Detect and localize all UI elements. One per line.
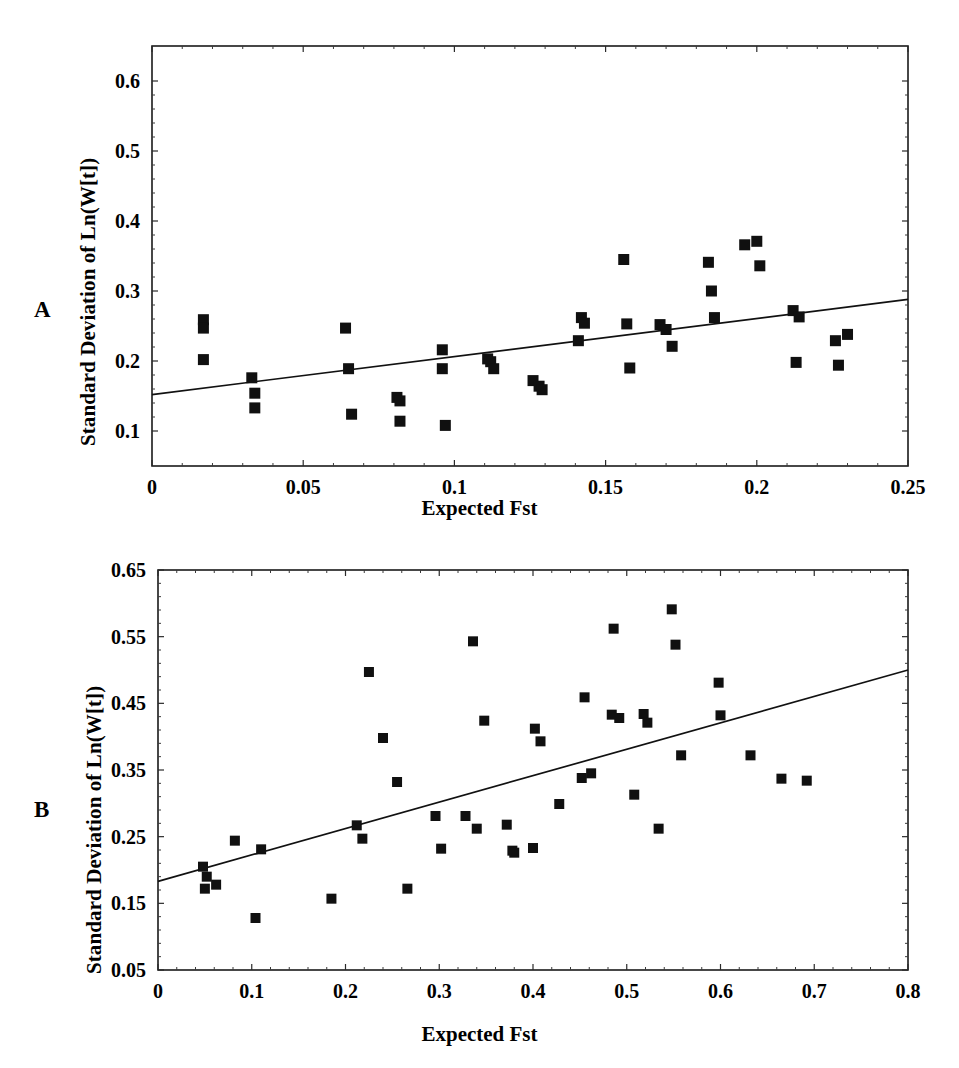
data-point [751, 236, 762, 247]
panel-a: A Standard Deviation of Ln(W[t]) Expecte… [0, 0, 959, 534]
data-point [479, 716, 489, 726]
data-point [357, 834, 367, 844]
y-tick-label: 0.15 [111, 892, 146, 914]
data-point [833, 360, 844, 371]
data-point [431, 811, 441, 821]
x-tick-label: 0.1 [239, 980, 264, 1002]
data-point [537, 384, 548, 395]
data-point [392, 777, 402, 787]
x-tick-label: 0.05 [286, 476, 321, 498]
data-point [402, 884, 412, 894]
data-point [586, 768, 596, 778]
data-point [554, 799, 564, 809]
data-point [716, 710, 726, 720]
data-point [776, 774, 786, 784]
data-point [472, 824, 482, 834]
y-tick-label: 0.5 [115, 140, 140, 162]
data-point [842, 329, 853, 340]
data-point [580, 692, 590, 702]
data-point [436, 844, 446, 854]
data-point [791, 357, 802, 368]
y-tick-label: 0.65 [111, 559, 146, 581]
y-tick-label: 0.2 [115, 350, 140, 372]
data-point [326, 894, 336, 904]
data-point [714, 678, 724, 688]
data-point [528, 843, 538, 853]
data-point [251, 913, 261, 923]
panel-b-plot: 00.10.20.30.40.50.60.70.80.050.150.250.3… [0, 534, 959, 1068]
y-tick-label: 0.6 [115, 70, 140, 92]
data-point [394, 395, 405, 406]
x-tick-label: 0.4 [521, 980, 546, 1002]
data-point [249, 388, 260, 399]
x-tick-label: 0.7 [802, 980, 827, 1002]
y-tick-label: 0.1 [115, 420, 140, 442]
data-point [468, 636, 478, 646]
figure-scatter-pair: A Standard Deviation of Ln(W[t]) Expecte… [0, 0, 959, 1068]
data-point [794, 311, 805, 322]
data-point [230, 836, 240, 846]
data-point [198, 354, 209, 365]
data-point [573, 335, 584, 346]
y-tick-label: 0.55 [111, 626, 146, 648]
data-point [211, 880, 221, 890]
data-point [739, 239, 750, 250]
x-tick-label: 0.5 [614, 980, 639, 1002]
data-point [609, 624, 619, 634]
panel-a-plot: 00.050.10.150.20.250.10.20.30.40.50.6 [0, 0, 959, 534]
data-point [343, 363, 354, 374]
y-tick-label: 0.35 [111, 759, 146, 781]
data-point [754, 260, 765, 271]
x-tick-label: 0.8 [896, 980, 921, 1002]
plot-frame [152, 46, 908, 466]
data-point [378, 733, 388, 743]
data-point [502, 820, 512, 830]
data-point [621, 318, 632, 329]
data-point [706, 286, 717, 297]
x-tick-label: 0.1 [442, 476, 467, 498]
data-point [246, 372, 257, 383]
data-point [198, 862, 208, 872]
data-point [198, 323, 209, 334]
y-tick-label: 0.3 [115, 280, 140, 302]
data-point [249, 402, 260, 413]
data-point [440, 420, 451, 431]
x-tick-label: 0.15 [588, 476, 623, 498]
y-tick-label: 0.4 [115, 210, 140, 232]
x-tick-label: 0 [153, 980, 163, 1002]
data-point [746, 750, 756, 760]
data-point [364, 667, 374, 677]
plot-frame [158, 570, 908, 970]
data-point [618, 254, 629, 265]
x-tick-label: 0.6 [708, 980, 733, 1002]
data-point [200, 884, 210, 894]
data-point [579, 318, 590, 329]
data-point [629, 790, 639, 800]
data-point [639, 709, 649, 719]
data-point [709, 312, 720, 323]
x-tick-label: 0.25 [891, 476, 926, 498]
data-point [830, 335, 841, 346]
data-point [488, 363, 499, 374]
data-point [642, 718, 652, 728]
x-tick-label: 0.3 [427, 980, 452, 1002]
data-point [530, 724, 540, 734]
data-point [202, 872, 212, 882]
data-point [676, 750, 686, 760]
data-point [667, 604, 677, 614]
data-point [394, 416, 405, 427]
data-point [802, 776, 812, 786]
x-tick-label: 0.2 [744, 476, 769, 498]
panel-b: B Standard Deviation of Ln(W[t]) Expecte… [0, 534, 959, 1068]
data-point [536, 736, 546, 746]
data-point [509, 848, 519, 858]
data-point [671, 640, 681, 650]
data-point [703, 257, 714, 268]
data-point [667, 341, 678, 352]
data-point [256, 844, 266, 854]
x-tick-label: 0 [147, 476, 157, 498]
data-point [437, 363, 448, 374]
y-tick-label: 0.45 [111, 692, 146, 714]
data-point [352, 820, 362, 830]
data-point [624, 363, 635, 374]
